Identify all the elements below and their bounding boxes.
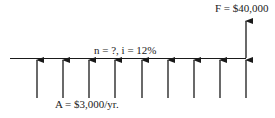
annuity-arrows (37, 60, 246, 98)
period-rate-label: n = ?, i = 12% (94, 44, 157, 56)
future-value-label: F = $40,000 (215, 2, 269, 14)
annuity-label: A = $3,000/yr. (55, 98, 119, 110)
cash-flow-diagram (0, 0, 275, 118)
